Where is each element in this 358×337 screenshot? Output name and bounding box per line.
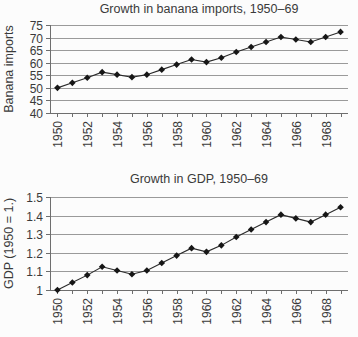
data-point-marker [337,204,344,211]
x-tick-label: 1962 [230,121,244,148]
gdp-plot: Growth in GDP, 1950–6911.11.21.31.41.5GD… [0,168,358,337]
y-axis-title: Banana imports [2,25,16,113]
y-tick-label: 60 [30,57,44,71]
x-tick-label: 1950 [51,298,65,325]
chart-title: Growth in banana imports, 1950–69 [100,2,299,16]
data-point-marker [69,80,76,87]
data-point-marker [203,59,210,66]
y-axis-title: GDP (1950 = 1.) [2,198,16,289]
data-point-marker [307,219,314,226]
data-point-marker [69,279,76,286]
x-tick-label: 1960 [200,298,214,325]
y-tick-label: 1.4 [26,210,43,224]
data-point-marker [158,66,165,73]
x-tick-label: 1966 [290,298,304,325]
x-tick-label: 1952 [81,121,95,148]
x-tick-label: 1960 [200,121,214,148]
y-tick-label: 55 [30,69,44,83]
figure-page: Growth in banana imports, 1950–694045505… [0,0,358,337]
x-tick-label: 1958 [171,121,185,148]
y-tick-label: 70 [30,32,44,46]
chart-title: Growth in GDP, 1950–69 [130,172,268,186]
data-point-marker [337,29,344,36]
data-point-marker [114,267,121,274]
data-point-marker [218,54,225,61]
y-tick-label: 75 [30,19,44,33]
data-point-marker [99,263,106,270]
data-line-gdp-1950-1- [57,207,340,290]
data-point-marker [99,69,106,76]
data-point-marker [293,36,300,43]
y-tick-label: 1.5 [26,191,43,205]
y-tick-label: 65 [30,44,44,58]
data-point-marker [218,242,225,249]
x-tick-label: 1966 [290,121,304,148]
data-point-marker [263,39,270,46]
y-tick-label: 45 [30,94,44,108]
x-tick-label: 1968 [320,121,334,148]
data-point-marker [173,61,180,68]
data-point-marker [307,39,314,46]
data-point-marker [158,260,165,267]
banana-imports-chart: Growth in banana imports, 1950–694045505… [0,0,358,168]
x-tick-label: 1962 [230,298,244,325]
data-point-marker [188,245,195,252]
data-point-marker [322,34,329,41]
x-tick-label: 1964 [260,121,274,148]
data-point-marker [233,49,240,56]
x-tick-label: 1964 [260,298,274,325]
data-point-marker [203,249,210,256]
data-point-marker [144,267,151,274]
x-tick-label: 1956 [141,298,155,325]
x-tick-label: 1956 [141,121,155,148]
data-point-marker [84,272,91,279]
data-point-marker [188,56,195,63]
x-tick-label: 1954 [111,298,125,325]
y-tick-label: 1.1 [26,265,43,279]
x-tick-label: 1952 [81,298,95,325]
data-point-marker [54,85,61,92]
y-tick-label: 1.3 [26,228,43,242]
data-point-marker [248,226,255,233]
x-tick-label: 1958 [171,298,185,325]
data-point-marker [263,219,270,226]
data-point-marker [129,74,136,81]
x-tick-label: 1954 [111,121,125,148]
data-point-marker [278,34,285,41]
data-point-marker [144,71,151,78]
data-point-marker [54,287,61,294]
x-tick-label: 1968 [320,298,334,325]
banana-imports-plot: Growth in banana imports, 1950–694045505… [0,0,358,168]
y-tick-label: 50 [30,82,44,96]
data-point-marker [114,71,121,78]
y-tick-label: 40 [30,107,44,121]
data-point-marker [248,44,255,51]
y-tick-label: 1 [36,284,43,298]
gdp-chart: Growth in GDP, 1950–6911.11.21.31.41.5GD… [0,168,358,337]
x-tick-label: 1950 [51,121,65,148]
y-tick-label: 1.2 [26,247,43,261]
